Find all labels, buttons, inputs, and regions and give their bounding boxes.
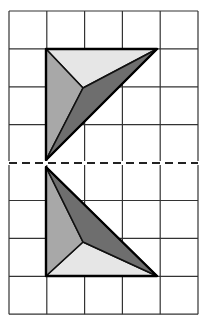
grid-diagram xyxy=(0,0,201,319)
upper-pyramid xyxy=(46,49,157,160)
lower-pyramid xyxy=(46,167,157,276)
